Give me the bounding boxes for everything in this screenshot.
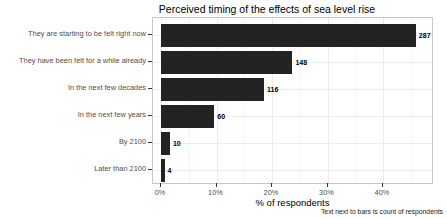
bar-value-label: 148 xyxy=(295,59,307,66)
chart-title: Perceived timing of the effects of sea l… xyxy=(87,3,447,15)
gridline-horizontal-major xyxy=(153,170,432,171)
x-tick xyxy=(382,183,383,187)
plot-panel: 28714811660104 xyxy=(152,17,433,184)
y-axis-label: In the next few years xyxy=(0,111,146,119)
x-tick-label: 20% xyxy=(256,188,286,197)
x-tick xyxy=(160,183,161,187)
bar-value-label: 10 xyxy=(173,140,181,147)
y-tick xyxy=(148,169,152,170)
y-tick xyxy=(148,34,152,35)
y-tick xyxy=(148,142,152,143)
bar xyxy=(161,132,170,155)
bar xyxy=(161,105,214,128)
y-axis-label: They are starting to be felt right now xyxy=(0,30,146,38)
bar-chart: Perceived timing of the effects of sea l… xyxy=(0,0,447,218)
x-tick xyxy=(216,183,217,187)
x-tick-label: 0% xyxy=(145,188,175,197)
x-tick-label: 40% xyxy=(367,188,397,197)
y-tick xyxy=(148,115,152,116)
y-tick xyxy=(148,61,152,62)
x-axis-title: % of respondents xyxy=(152,197,433,208)
bar xyxy=(161,159,165,182)
bar-value-label: 287 xyxy=(419,32,431,39)
x-tick-label: 10% xyxy=(201,188,231,197)
y-tick xyxy=(148,88,152,89)
x-tick xyxy=(271,183,272,187)
bar-value-label: 116 xyxy=(267,86,278,93)
bar-value-label: 60 xyxy=(217,113,225,120)
bar xyxy=(161,78,264,101)
x-tick xyxy=(327,183,328,187)
y-axis-label: They have been felt for a while already xyxy=(0,57,146,65)
chart-caption: Text next to bars is count of respondent… xyxy=(143,208,443,215)
bar xyxy=(161,24,416,47)
y-axis-label: In the next few decades xyxy=(0,84,146,92)
bar xyxy=(161,51,292,74)
x-tick-label: 30% xyxy=(312,188,342,197)
bar-value-label: 4 xyxy=(168,167,172,174)
y-axis-label: Later than 2100 xyxy=(0,165,146,173)
y-axis-label: By 2100 xyxy=(0,138,146,146)
gridline-horizontal-major xyxy=(153,143,432,144)
